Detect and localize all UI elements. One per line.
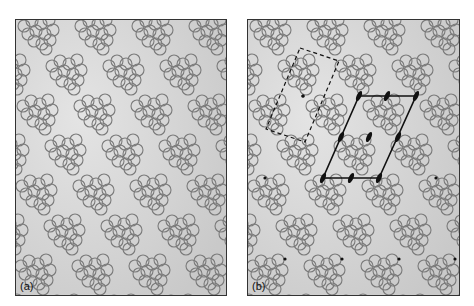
panel-b: (b)	[247, 19, 460, 296]
molecular-packing-image-b	[248, 20, 460, 296]
atom-circle	[222, 295, 227, 296]
inversion-center-dot	[263, 176, 266, 179]
atom-circle	[165, 295, 177, 296]
atom-circle	[108, 295, 120, 296]
atom-circle	[283, 295, 295, 296]
inversion-center-dot	[453, 257, 456, 260]
inversion-center-dot	[301, 94, 304, 97]
inversion-center-dot	[283, 257, 286, 260]
atom-circle	[454, 295, 460, 296]
panel-label-a: (a)	[20, 280, 33, 292]
atom-circle	[51, 295, 63, 296]
atom-circle	[397, 295, 409, 296]
atom-circle	[459, 225, 460, 237]
inversion-center-dot	[340, 257, 343, 260]
atom-circle	[459, 75, 460, 87]
molecular-packing-image-a	[16, 20, 227, 296]
inversion-center-dot	[434, 176, 437, 179]
panel-label-b: (b)	[252, 280, 265, 292]
inversion-center-dot	[397, 257, 400, 260]
panel-a: (a)	[15, 19, 227, 296]
atom-circle	[340, 295, 352, 296]
atom-circle	[226, 155, 227, 167]
